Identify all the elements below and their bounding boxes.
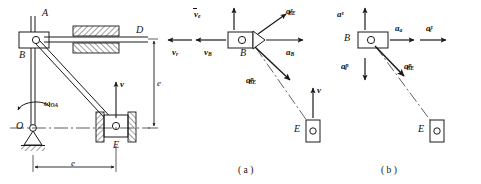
label-point-D: D xyxy=(136,25,143,35)
dashdot-BE-b xyxy=(376,47,436,128)
label-point-B-a: B xyxy=(240,48,246,58)
label-a-n-e-b: ane xyxy=(341,62,347,72)
label-a-n-BE-a: anBE xyxy=(246,76,256,86)
mechanism-diagram xyxy=(10,16,158,172)
label-a-tau-b: aτ xyxy=(337,10,344,19)
figure-vector-graphics xyxy=(0,0,481,184)
label-v-bar-e: ve xyxy=(194,10,200,20)
label-dim-horizontal-e: e xyxy=(71,159,75,168)
label-a-tau-e-b: aτe xyxy=(426,24,431,34)
fixed-guide-D xyxy=(73,26,119,53)
label-a-a-b: aa xyxy=(395,24,402,34)
label-velocity-v-mechanism: v xyxy=(120,80,124,89)
caption-a: ( a ) xyxy=(238,166,253,176)
label-v-B: vB xyxy=(204,48,212,58)
label-dim-vertical-e: e xyxy=(157,79,161,88)
label-v-E-a: v xyxy=(317,86,321,95)
label-point-E-a: E xyxy=(294,124,300,134)
dashdot-BE-a xyxy=(256,48,312,128)
figure-root: A B D O E ωOA v e e ve vr vB aB aτBE anB… xyxy=(0,0,481,184)
arrow-a-n-BE xyxy=(255,47,290,80)
diagram-a-vectors xyxy=(168,8,320,142)
ground-pivot-O xyxy=(21,125,45,151)
label-point-B-b: B xyxy=(344,33,350,43)
arrow-a-n-BE-b xyxy=(375,46,404,76)
pin-E-b xyxy=(434,128,440,134)
label-point-E: E xyxy=(113,140,119,150)
label-v-r: vr xyxy=(172,48,178,58)
pin-B-b xyxy=(367,36,374,43)
label-a-tau-BE-a: aτBE xyxy=(286,7,295,17)
pin-B-a xyxy=(238,36,245,43)
caption-b: ( b ) xyxy=(381,166,397,176)
arrow-a-tau-BE xyxy=(258,14,286,34)
guide-bar-BD xyxy=(44,37,148,42)
label-point-O: O xyxy=(16,121,23,131)
label-point-B: B xyxy=(19,50,25,60)
label-a-B: aB xyxy=(286,48,294,58)
label-a-n-BE-b: anBE xyxy=(404,62,414,72)
label-point-A: A xyxy=(42,8,48,18)
label-omega-OA: ωOA xyxy=(44,99,58,109)
pin-E-a xyxy=(310,128,316,134)
label-point-E-b: E xyxy=(418,124,424,134)
